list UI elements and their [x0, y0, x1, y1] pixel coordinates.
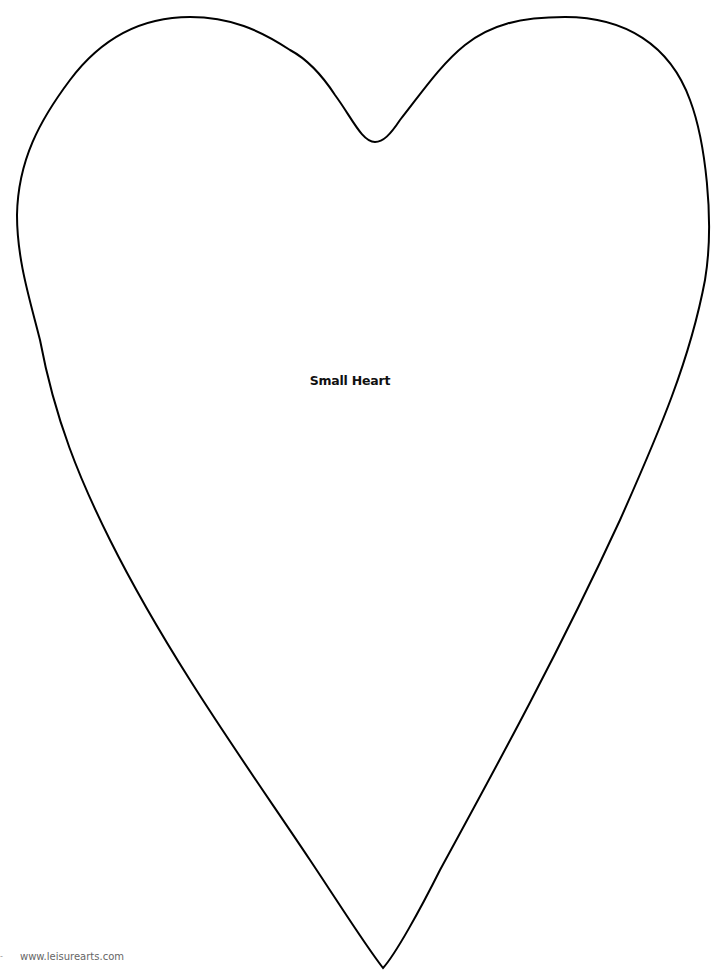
heart-label: Small Heart: [290, 373, 410, 388]
footer-url: www.leisurearts.com: [20, 951, 124, 962]
heart-outline: [0, 0, 718, 974]
crop-mark: -: [0, 952, 4, 959]
